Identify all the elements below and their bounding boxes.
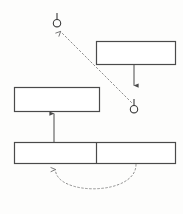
lollipop-top-left-circle — [53, 20, 60, 27]
box-middle-left-frame — [15, 88, 100, 112]
dashed-return-arc — [55, 165, 136, 189]
lollipop-top-left-icon[interactable] — [53, 13, 60, 27]
diagram-canvas — [0, 0, 183, 214]
box-bottom-wide[interactable] — [15, 143, 176, 164]
lollipop-mid-right-circle — [130, 106, 137, 113]
box-top-right-frame — [97, 42, 176, 65]
diagram-svg — [0, 0, 183, 214]
box-top-right[interactable] — [97, 42, 176, 65]
box-middle-left[interactable] — [15, 88, 100, 112]
lollipop-mid-right-icon[interactable] — [130, 99, 137, 113]
box-bottom-wide-frame — [15, 143, 176, 164]
